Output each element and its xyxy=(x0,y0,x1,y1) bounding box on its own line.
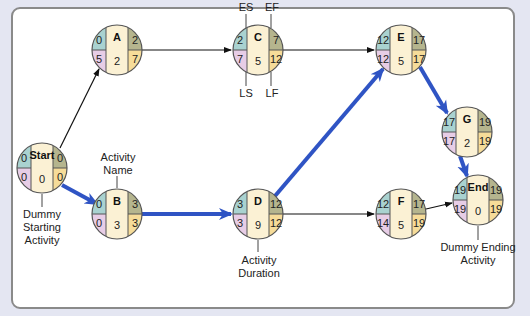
ef-value: 3 xyxy=(132,198,138,210)
label-lf: LF xyxy=(266,87,279,99)
lf-value: 12 xyxy=(270,217,282,229)
ls-value: 14 xyxy=(377,217,389,229)
es-value: 0 xyxy=(96,34,102,46)
ls-value: 0 xyxy=(96,217,102,229)
node-g: G217171919 xyxy=(442,107,492,157)
es-value: 0 xyxy=(96,198,102,210)
node-f: F512141719 xyxy=(376,189,426,239)
ls-value: 17 xyxy=(443,135,455,147)
node-end: End019191919 xyxy=(453,175,503,225)
edge-f-end xyxy=(426,203,452,209)
label-activity-name-2: Name xyxy=(103,164,132,176)
ef-value: 12 xyxy=(270,198,282,210)
ef-value: 7 xyxy=(273,34,279,46)
duration-value: 9 xyxy=(255,219,261,231)
edge-d-e xyxy=(275,69,383,196)
ef-value: 17 xyxy=(413,34,425,46)
ef-value: 17 xyxy=(413,198,425,210)
ef-value: 2 xyxy=(132,34,138,46)
duration-value: 5 xyxy=(398,219,404,231)
node-b: B30033 xyxy=(92,189,142,239)
label-dummy-start-2: Starting xyxy=(23,221,61,233)
edge-start-a xyxy=(60,69,99,148)
ef-value: 0 xyxy=(57,152,63,164)
ls-value: 19 xyxy=(454,203,466,215)
es-value: 12 xyxy=(377,34,389,46)
duration-value: 3 xyxy=(114,219,120,231)
duration-value: 0 xyxy=(39,173,45,185)
network-diagram: ES EF LS LF Activity Name Activity Durat… xyxy=(0,0,530,316)
label-ls: LS xyxy=(239,87,252,99)
activity-name: Start xyxy=(29,149,54,161)
duration-value: 0 xyxy=(475,205,481,217)
es-value: 17 xyxy=(443,116,455,128)
label-dummy-start-3: Activity xyxy=(25,234,60,246)
duration-value: 5 xyxy=(255,55,261,67)
label-activity-duration-1: Activity xyxy=(242,254,277,266)
node-e: E512121717 xyxy=(376,25,426,75)
node-d: D9331212 xyxy=(233,189,283,239)
es-value: 2 xyxy=(237,34,243,46)
label-activity-duration-2: Duration xyxy=(238,267,280,279)
activity-name: F xyxy=(398,195,405,207)
edge-start-b xyxy=(62,185,97,204)
activity-name: End xyxy=(468,181,489,193)
es-value: 0 xyxy=(21,152,27,164)
ls-value: 0 xyxy=(21,171,27,183)
lf-value: 3 xyxy=(132,217,138,229)
label-dummy-start-1: Dummy xyxy=(23,208,61,220)
nodes: Start00000A20527B30033C527712D9331212E51… xyxy=(17,25,503,239)
lf-value: 12 xyxy=(270,53,282,65)
activity-name: E xyxy=(397,31,404,43)
duration-value: 2 xyxy=(464,137,470,149)
ls-value: 5 xyxy=(96,53,102,65)
activity-name: G xyxy=(463,113,472,125)
label-es: ES xyxy=(239,1,254,13)
label-activity-name-1: Activity xyxy=(101,151,136,163)
lf-value: 19 xyxy=(479,135,491,147)
node-c: C527712 xyxy=(233,25,283,75)
activity-name: C xyxy=(254,31,262,43)
activity-name: B xyxy=(113,195,121,207)
edge-e-g xyxy=(420,67,447,113)
ef-value: 19 xyxy=(479,116,491,128)
ls-value: 7 xyxy=(237,53,243,65)
lf-value: 7 xyxy=(132,53,138,65)
lf-value: 19 xyxy=(413,217,425,229)
label-ef: EF xyxy=(265,1,279,13)
es-value: 19 xyxy=(454,184,466,196)
es-value: 12 xyxy=(377,198,389,210)
ls-value: 3 xyxy=(237,217,243,229)
label-dummy-end-2: Activity xyxy=(461,254,496,266)
lf-value: 17 xyxy=(413,53,425,65)
ef-value: 19 xyxy=(490,184,502,196)
ls-value: 12 xyxy=(377,53,389,65)
lf-value: 0 xyxy=(57,171,63,183)
activity-name: A xyxy=(113,31,121,43)
duration-value: 2 xyxy=(114,55,120,67)
edge-g-end xyxy=(460,156,467,176)
lf-value: 19 xyxy=(490,203,502,215)
activity-name: D xyxy=(254,195,262,207)
node-start: Start00000 xyxy=(17,143,67,193)
label-dummy-end-1: Dummy Ending xyxy=(440,241,515,253)
node-a: A20527 xyxy=(92,25,142,75)
es-value: 3 xyxy=(237,198,243,210)
duration-value: 5 xyxy=(398,55,404,67)
